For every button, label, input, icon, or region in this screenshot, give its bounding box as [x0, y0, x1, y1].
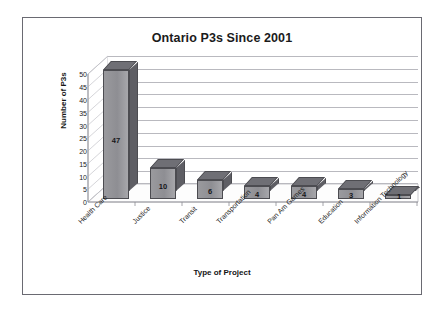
bar-value-label: 10: [151, 182, 175, 191]
bar-value-label: 47: [104, 136, 128, 145]
plot-area: 50 45 40 35 30 25 20 15 10 5 0 47: [63, 56, 408, 216]
chart-frame: Ontario P3s Since 2001: [22, 17, 422, 295]
bar-value-label: 6: [198, 187, 222, 196]
bar-transit[interactable]: 6: [197, 180, 223, 199]
bar-justice[interactable]: 10: [150, 168, 176, 199]
y-axis-title: Number of P3s: [59, 56, 68, 146]
bar-value-label: 1: [387, 192, 411, 201]
chart-title: Ontario P3s Since 2001: [23, 31, 421, 45]
bar-information-technology[interactable]: 1: [385, 195, 411, 199]
bar-education[interactable]: 3: [338, 189, 364, 199]
bar-health-care[interactable]: 47: [103, 70, 129, 199]
bar-value-label: 3: [339, 191, 363, 200]
bars: 47 10 6 4: [63, 56, 408, 216]
x-axis-title: Type of Project: [23, 268, 421, 277]
